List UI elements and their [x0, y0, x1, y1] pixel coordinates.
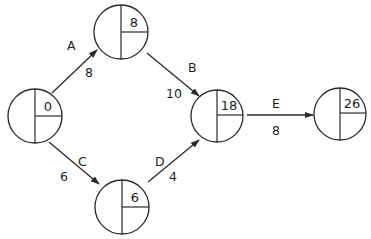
duration-label-e: 8 — [272, 123, 280, 138]
node-earliest-time: 18 — [221, 98, 238, 113]
activity-label-e: E — [272, 96, 280, 111]
node-1: 0 — [8, 89, 62, 143]
edge-e: E 8 — [247, 96, 313, 138]
node-earliest-time: 26 — [344, 96, 361, 111]
activity-label-b: B — [188, 60, 197, 75]
activity-label-c: C — [78, 154, 87, 169]
network-diagram: A 8 B 10 C 6 D 4 E 8 0 8 6 — [0, 0, 371, 239]
activity-label-a: A — [67, 38, 76, 53]
duration-label-b: 10 — [166, 86, 182, 101]
node-earliest-time: 6 — [131, 190, 139, 205]
activity-label-d: D — [155, 154, 165, 169]
arrow-c — [49, 142, 99, 184]
node-earliest-time: 0 — [44, 99, 52, 114]
duration-label-d: 4 — [169, 169, 177, 184]
edge-d: D 4 — [148, 140, 199, 184]
node-4: 18 — [191, 90, 243, 142]
edge-a: A 8 — [52, 38, 97, 93]
duration-label-c: 6 — [60, 169, 68, 184]
node-5: 26 — [314, 88, 366, 140]
node-earliest-time: 8 — [130, 15, 138, 30]
duration-label-a: 8 — [85, 65, 93, 80]
node-2: 8 — [94, 5, 148, 59]
node-3: 6 — [95, 180, 149, 234]
edge-c: C 6 — [49, 142, 99, 184]
edge-b: B 10 — [147, 53, 199, 101]
